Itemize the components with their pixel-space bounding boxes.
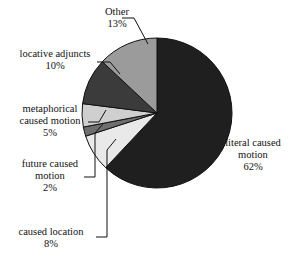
pie-chart-figure: Other 13% locative adjuncts 10% metaphor… [0, 0, 292, 265]
pie-label-future-caused-motion-name1: future caused [6, 158, 94, 170]
pie-label-literal-caused-motion: literal caused motion 62% [216, 137, 290, 172]
pie-label-other: Other 13% [86, 6, 148, 30]
pie-label-caused-location-name: caused location [2, 226, 100, 238]
pie-label-future-caused-motion-name2: motion [6, 170, 94, 182]
pie-label-literal-caused-motion-name1: literal caused [216, 137, 290, 149]
pie-label-locative-adjuncts: locative adjuncts 10% [4, 48, 106, 72]
pie-label-caused-location: caused location 8% [2, 226, 100, 250]
pie-label-future-caused-motion: future caused motion 2% [6, 158, 94, 193]
pie-label-metaphorical-caused-motion: metaphorical caused motion 5% [2, 103, 98, 138]
pie-label-literal-caused-motion-name2: motion [216, 149, 290, 161]
pie-label-other-value: 13% [86, 18, 148, 30]
pie-label-caused-location-value: 8% [2, 238, 100, 250]
pie-label-locative-adjuncts-value: 10% [4, 60, 106, 72]
pie-label-metaphorical-caused-motion-value: 5% [2, 127, 98, 139]
pie-label-other-name: Other [86, 6, 148, 18]
pie-label-metaphorical-caused-motion-name2: caused motion [2, 115, 98, 127]
pie-label-metaphorical-caused-motion-name1: metaphorical [2, 103, 98, 115]
pie-label-locative-adjuncts-name: locative adjuncts [4, 48, 106, 60]
pie-label-future-caused-motion-value: 2% [6, 182, 94, 194]
pie-label-literal-caused-motion-value: 62% [216, 161, 290, 173]
